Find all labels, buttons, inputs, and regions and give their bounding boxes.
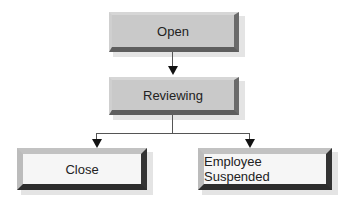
node-open[interactable]: Open (109, 12, 239, 52)
connector-open-reviewing (172, 52, 173, 67)
node-label: Close (23, 154, 141, 184)
arrow-down-icon (92, 139, 102, 148)
connector-horizontal (96, 133, 250, 134)
connector-reviewing-stem (172, 115, 173, 133)
node-employee-suspended[interactable]: Employee Suspended (198, 148, 332, 190)
node-reviewing[interactable]: Reviewing (109, 77, 239, 115)
arrow-down-icon (168, 66, 178, 75)
node-label: Employee Suspended (204, 154, 326, 184)
arrow-down-icon (245, 139, 255, 148)
node-label: Reviewing (112, 80, 234, 110)
node-close[interactable]: Close (17, 148, 147, 190)
node-label: Open (112, 15, 234, 47)
